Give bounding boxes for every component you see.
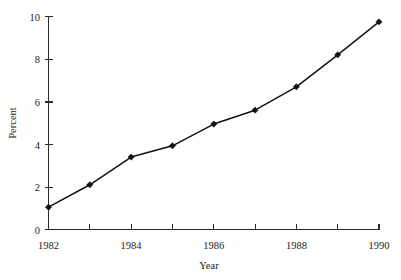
y-tick-label: 2	[35, 182, 40, 193]
x-tick-label: 1990	[369, 240, 390, 251]
line-chart: 10 8 6 4 2 0 1982 1984 1986 1988 1990	[0, 0, 401, 280]
y-tick-label: 6	[35, 97, 40, 108]
y-tick-label: 4	[35, 140, 41, 151]
x-tick-label: 1984	[121, 240, 143, 251]
chart-page: 10 8 6 4 2 0 1982 1984 1986 1988 1990	[0, 0, 401, 280]
x-axis-title: Year	[199, 260, 219, 271]
x-tick-label: 1986	[203, 240, 224, 251]
y-axis-title: Percent	[7, 107, 18, 139]
chart-background	[0, 0, 401, 280]
y-tick-label: 8	[35, 54, 40, 65]
x-tick-label: 1982	[38, 240, 59, 251]
y-tick-label: 0	[35, 225, 40, 236]
x-tick-label: 1988	[286, 240, 307, 251]
y-tick-label: 10	[30, 12, 41, 23]
